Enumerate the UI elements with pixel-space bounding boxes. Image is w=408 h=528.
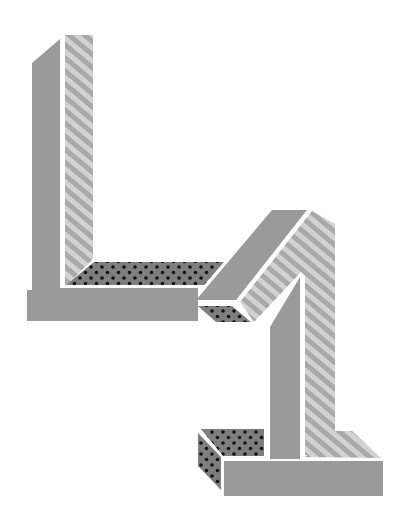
numeral-41-illustration <box>0 0 408 528</box>
one-base-bar <box>224 461 383 496</box>
digit-one <box>196 210 383 496</box>
one-small-dotted <box>198 306 251 322</box>
four-striped-face <box>65 35 93 287</box>
one-stem-face <box>270 277 300 459</box>
digit-four <box>27 35 224 321</box>
four-dotted-floor <box>66 262 224 285</box>
